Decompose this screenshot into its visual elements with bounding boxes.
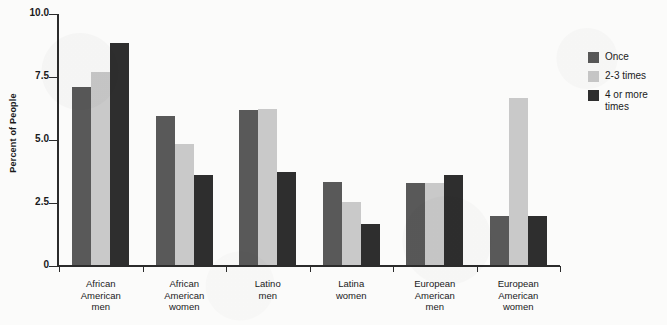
category-label-line: American <box>393 290 477 302</box>
y-axis-tick-label: 2.5 <box>5 196 49 207</box>
legend-swatch <box>588 71 599 82</box>
bar[interactable] <box>156 116 175 266</box>
category-label-line: American <box>477 290 561 302</box>
x-axis-category-label: Latinomen <box>226 278 310 301</box>
legend-label: 4 or more times <box>605 89 664 112</box>
x-axis-line <box>57 265 560 267</box>
bar[interactable] <box>528 216 547 266</box>
legend-label: 2-3 times <box>605 70 646 82</box>
plot-area <box>59 14 560 266</box>
category-label-line: American <box>59 290 143 302</box>
x-axis-category-label: EuropeanAmericanwomen <box>477 278 561 313</box>
bar[interactable] <box>91 72 110 266</box>
bar-group <box>393 14 477 266</box>
category-label-line: American <box>143 290 227 302</box>
x-axis-tick <box>310 266 311 272</box>
category-label-line: Latina <box>310 278 394 290</box>
y-axis-tick <box>49 140 57 141</box>
x-axis-category-label: Latinawomen <box>310 278 394 301</box>
legend-swatch <box>588 90 599 101</box>
bar[interactable] <box>175 144 194 266</box>
bar-group <box>310 14 394 266</box>
bar-group <box>477 14 561 266</box>
y-axis-tick <box>49 14 57 15</box>
category-label-line: men <box>226 290 310 302</box>
y-axis-tick <box>49 77 57 78</box>
y-axis-line <box>57 14 59 267</box>
bar[interactable] <box>72 87 91 266</box>
y-axis-tick-label: 10.0 <box>5 7 49 18</box>
category-label-line: European <box>477 278 561 290</box>
y-axis-tick <box>49 203 57 204</box>
y-axis-tick-label: 7.5 <box>5 70 49 81</box>
x-axis-category-label: AfricanAmericanmen <box>59 278 143 313</box>
bar[interactable] <box>361 224 380 266</box>
bar[interactable] <box>444 175 463 266</box>
x-axis-category-label: EuropeanAmericanmen <box>393 278 477 313</box>
category-label-line: men <box>393 301 477 313</box>
bar[interactable] <box>342 202 361 266</box>
legend-item[interactable]: 4 or more times <box>588 89 664 112</box>
legend-item[interactable]: Once <box>588 51 664 63</box>
bar-group <box>59 14 143 266</box>
y-axis-tick <box>49 266 57 267</box>
category-label-line: Latino <box>226 278 310 290</box>
bar[interactable] <box>490 216 509 266</box>
x-axis-tick <box>143 266 144 272</box>
category-label-line: women <box>310 290 394 302</box>
y-axis-tick-label: 0 <box>5 259 49 270</box>
bar[interactable] <box>194 175 213 266</box>
category-label-line: European <box>393 278 477 290</box>
bar[interactable] <box>110 43 129 266</box>
x-axis-tick <box>393 266 394 272</box>
bar[interactable] <box>258 109 277 267</box>
bar[interactable] <box>277 172 296 267</box>
bar-group <box>143 14 227 266</box>
bar[interactable] <box>509 98 528 266</box>
bar[interactable] <box>323 182 342 266</box>
category-label-line: men <box>59 301 143 313</box>
category-label-line: African <box>59 278 143 290</box>
chart-legend: Once2-3 times4 or more times <box>588 51 664 119</box>
x-axis-tick <box>59 266 60 272</box>
legend-item[interactable]: 2-3 times <box>588 70 664 82</box>
x-axis-category-label: AfricanAmericanwomen <box>143 278 227 313</box>
bar-chart-figure: Percent of People 10.07.55.02.50 African… <box>0 0 667 325</box>
y-axis-tick-label: 5.0 <box>5 133 49 144</box>
bar[interactable] <box>425 183 444 266</box>
legend-label: Once <box>605 51 629 63</box>
x-axis-tick <box>560 266 561 272</box>
legend-swatch <box>588 52 599 63</box>
x-axis-tick <box>477 266 478 272</box>
bar[interactable] <box>239 110 258 266</box>
category-label-line: African <box>143 278 227 290</box>
bar[interactable] <box>406 183 425 266</box>
category-label-line: women <box>143 301 227 313</box>
x-axis-tick <box>226 266 227 272</box>
category-label-line: women <box>477 301 561 313</box>
bar-group <box>226 14 310 266</box>
